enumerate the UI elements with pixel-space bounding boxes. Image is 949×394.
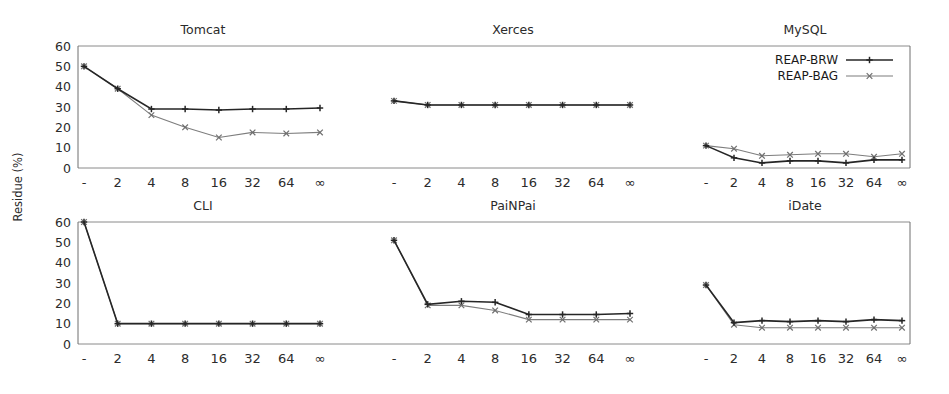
plus-marker — [627, 310, 633, 316]
x-tick-label: 4 — [758, 351, 766, 366]
x-tick-label: 32 — [838, 175, 855, 190]
x-tick-label: 4 — [147, 175, 155, 190]
x-tick-label: 4 — [147, 351, 155, 366]
x-tick-label: ∞ — [315, 351, 326, 366]
panel-row-frame — [78, 222, 910, 344]
x-tick-label: - — [82, 175, 87, 190]
x-tick-label: 64 — [588, 351, 605, 366]
x-tick-label: 8 — [491, 351, 499, 366]
y-tick-label: 10 — [55, 316, 71, 331]
x-tick-label: - — [82, 351, 87, 366]
x-tick-label: ∞ — [625, 175, 636, 190]
y-tick-label: 30 — [55, 100, 71, 115]
chart-panel-cli: CLI0102030405060-248163264∞ — [55, 198, 325, 366]
chart-panel-idate: iDate-248163264∞ — [703, 198, 910, 366]
panel-title: CLI — [193, 198, 212, 213]
x-tick-label: 32 — [838, 351, 855, 366]
x-tick-label: 16 — [521, 351, 538, 366]
legend-label-reap-bag: REAP-BAG — [777, 69, 838, 83]
y-tick-label: 20 — [55, 120, 71, 135]
x-tick-label: - — [392, 175, 397, 190]
legend: REAP-BRWREAP-BAG — [775, 53, 893, 83]
plus-marker — [843, 160, 849, 166]
plus-marker — [759, 317, 765, 323]
panel-title: PaiNPai — [490, 198, 536, 213]
y-tick-label: 10 — [55, 140, 71, 155]
plus-marker — [182, 106, 188, 112]
y-tick-label: 50 — [55, 235, 71, 250]
x-tick-label: 16 — [521, 175, 538, 190]
x-tick-label: - — [704, 175, 709, 190]
plus-marker — [492, 299, 498, 305]
x-tick-label: 4 — [457, 351, 465, 366]
x-tick-label: 8 — [491, 175, 499, 190]
cross-marker — [149, 112, 155, 118]
plus-marker — [815, 317, 821, 323]
plus-marker — [899, 157, 905, 163]
x-tick-label: - — [704, 351, 709, 366]
x-tick-label: 64 — [866, 351, 883, 366]
plus-marker — [866, 57, 872, 63]
plus-marker — [759, 160, 765, 166]
x-tick-label: 32 — [244, 175, 261, 190]
y-tick-label: 30 — [55, 276, 71, 291]
chart-panel-tomcat: Tomcat0102030405060-248163264∞ — [55, 22, 325, 190]
plus-marker — [249, 106, 255, 112]
x-tick-label: 2 — [114, 175, 122, 190]
y-tick-label: 40 — [55, 79, 71, 94]
x-tick-label: 2 — [114, 351, 122, 366]
residue-multi-panel-figure: Tomcat0102030405060-248163264∞Xerces-248… — [0, 0, 949, 394]
x-tick-label: 64 — [588, 175, 605, 190]
x-tick-label: 32 — [244, 351, 261, 366]
x-tick-label: ∞ — [897, 351, 908, 366]
x-tick-label: 2 — [730, 175, 738, 190]
y-tick-label: 20 — [55, 296, 71, 311]
x-tick-label: 4 — [457, 175, 465, 190]
cross-marker — [182, 125, 188, 131]
x-tick-label: ∞ — [315, 175, 326, 190]
plus-marker — [283, 106, 289, 112]
y-tick-label: 50 — [55, 59, 71, 74]
legend-label-reap-brw: REAP-BRW — [775, 53, 838, 67]
x-tick-label: 32 — [554, 175, 571, 190]
x-tick-label: 8 — [786, 351, 794, 366]
panel-title: Tomcat — [180, 22, 226, 37]
series-line-reap-brw — [84, 222, 320, 324]
x-tick-label: 16 — [211, 175, 228, 190]
plus-marker — [871, 157, 877, 163]
y-tick-label: 0 — [63, 161, 71, 176]
x-tick-label: 16 — [810, 175, 827, 190]
plus-marker — [843, 318, 849, 324]
panel-title: Xerces — [492, 22, 534, 37]
x-tick-label: 4 — [758, 175, 766, 190]
y-tick-label: 60 — [55, 215, 71, 230]
plus-marker — [731, 155, 737, 161]
plus-marker — [787, 158, 793, 164]
x-tick-label: 16 — [810, 351, 827, 366]
x-tick-label: - — [392, 351, 397, 366]
x-tick-label: 2 — [424, 351, 432, 366]
chart-panel-painpai: PaiNPai-248163264∞ — [391, 198, 636, 366]
plus-marker — [787, 318, 793, 324]
plus-marker — [317, 105, 323, 111]
series-line-reap-brw — [706, 285, 902, 323]
x-tick-label: 8 — [181, 175, 189, 190]
y-tick-label: 0 — [63, 337, 71, 352]
x-tick-label: 32 — [554, 351, 571, 366]
x-tick-label: ∞ — [625, 351, 636, 366]
chart-panel-xerces: Xerces-248163264∞ — [391, 22, 636, 190]
chart-panel-mysql: MySQL-248163264∞ — [703, 22, 910, 190]
panel-title: iDate — [788, 198, 822, 213]
x-tick-label: 64 — [278, 175, 295, 190]
y-axis-label: Residue (%) — [11, 153, 25, 222]
x-tick-label: 16 — [211, 351, 228, 366]
y-tick-label: 40 — [55, 255, 71, 270]
series-line-reap-bag — [84, 222, 320, 324]
x-tick-label: ∞ — [897, 175, 908, 190]
plus-marker — [899, 317, 905, 323]
plus-marker — [216, 107, 222, 113]
y-tick-label: 60 — [55, 39, 71, 54]
x-tick-label: 2 — [424, 175, 432, 190]
panel-title: MySQL — [784, 22, 827, 37]
plus-marker — [871, 316, 877, 322]
